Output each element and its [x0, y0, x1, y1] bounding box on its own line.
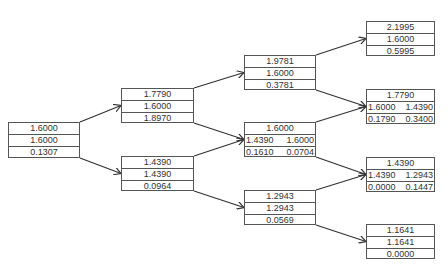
cell-left: 1.6000 — [368, 102, 396, 113]
node-row: 2.1995 — [367, 22, 434, 34]
node-2-downdown: 1.2943 1.2943 0.0569 — [244, 190, 316, 225]
node-row: 1.9781 — [245, 56, 315, 68]
node-1-up: 1.7790 1.6000 1.8970 — [121, 88, 194, 123]
edge-arrow — [316, 157, 366, 175]
node-row: 1.2943 — [245, 203, 315, 215]
node-row: 1.6000 — [245, 68, 315, 80]
node-row: 1.6000 — [367, 34, 434, 46]
node-3-uuu: 2.1995 1.6000 0.5995 — [366, 21, 435, 56]
cell-left: 0.1610 — [246, 147, 274, 158]
node-row: 0.0964 — [122, 181, 193, 192]
edge-arrow — [316, 175, 366, 191]
node-row-split: 1.6000 1.4390 — [367, 102, 434, 114]
node-row-split: 0.1790 0.3400 — [367, 114, 434, 125]
cell-right: 0.0704 — [286, 147, 314, 158]
cell-right: 1.2943 — [405, 170, 433, 181]
node-3-udd: 1.4390 1.4390 1.2943 0.0000 0.1447 — [366, 157, 435, 192]
edge-arrow — [316, 90, 366, 107]
edge-arrow — [194, 191, 244, 208]
node-3-ddd: 1.1641 1.1641 0.0000 — [366, 224, 435, 259]
node-row: 1.7790 — [122, 89, 193, 101]
node-root: 1.6000 1.6000 0.1307 — [8, 122, 80, 158]
edge-arrow — [80, 158, 121, 174]
node-row-split: 0.1610 0.0704 — [245, 147, 315, 158]
edge-arrow — [194, 73, 244, 89]
node-1-down: 1.4390 1.4390 0.0964 — [121, 156, 194, 191]
node-row: 0.5995 — [367, 46, 434, 57]
edge-arrow — [194, 123, 244, 140]
edge-arrow — [316, 107, 366, 123]
cell-left: 1.4390 — [246, 135, 274, 146]
node-row: 1.6000 — [9, 135, 79, 147]
node-row: 1.4390 — [367, 158, 434, 170]
edge-arrow — [194, 140, 244, 157]
node-row: 1.8970 — [122, 113, 193, 124]
node-row-split: 1.4390 1.6000 — [245, 135, 315, 147]
cell-left: 0.0000 — [368, 182, 396, 193]
cell-left: 0.1790 — [368, 114, 396, 125]
tree-diagram: 1.6000 1.6000 0.1307 1.7790 1.6000 1.897… — [0, 0, 448, 273]
node-row: 1.6000 — [122, 101, 193, 113]
edge-arrow — [316, 39, 366, 56]
node-row: 1.7790 — [367, 90, 434, 102]
node-row-split: 1.4390 1.2943 — [367, 170, 434, 182]
node-row: 1.6000 — [245, 123, 315, 135]
cell-left: 1.4390 — [368, 170, 396, 181]
node-row: 1.6000 — [9, 123, 79, 135]
cell-right: 0.3400 — [405, 114, 433, 125]
node-3-uud: 1.7790 1.6000 1.4390 0.1790 0.3400 — [366, 89, 435, 124]
node-row: 1.2943 — [245, 191, 315, 203]
node-row: 0.0000 — [367, 249, 434, 260]
node-row: 1.1641 — [367, 225, 434, 237]
node-row: 0.0569 — [245, 215, 315, 226]
node-row: 0.1307 — [9, 147, 79, 158]
cell-right: 1.6000 — [286, 135, 314, 146]
node-row-split: 0.0000 0.1447 — [367, 182, 434, 193]
node-row: 0.3781 — [245, 80, 315, 91]
node-2-updown: 1.6000 1.4390 1.6000 0.1610 0.0704 — [244, 122, 316, 157]
cell-right: 0.1447 — [405, 182, 433, 193]
cell-right: 1.4390 — [405, 102, 433, 113]
node-row: 1.4390 — [122, 157, 193, 169]
edge-arrow — [316, 225, 366, 242]
node-row: 1.1641 — [367, 237, 434, 249]
node-row: 1.4390 — [122, 169, 193, 181]
edge-arrow — [80, 106, 121, 123]
node-2-upup: 1.9781 1.6000 0.3781 — [244, 55, 316, 90]
